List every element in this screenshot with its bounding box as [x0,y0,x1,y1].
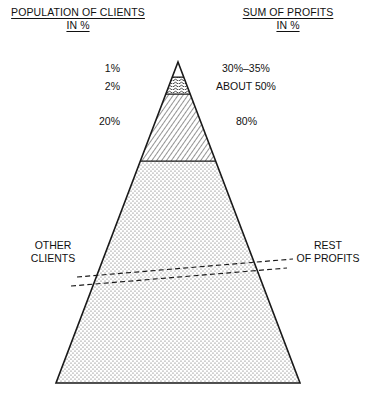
label-other-clients-line2: CLIENTS [20,252,86,265]
header-population-of-clients: POPULATION OF CLIENTS IN % [2,6,154,32]
label-other-clients-line1: OTHER [20,239,86,252]
label-rest-of-profits-line1: REST [292,239,364,252]
pyramid-diagram: POPULATION OF CLIENTS IN % SUM OF PROFIT… [0,0,365,398]
label-left-20-percent: 20% [66,115,120,128]
label-left-2-percent: 2% [75,80,120,93]
header-right-line2: IN % [218,19,358,32]
label-right-80-percent: 80% [236,115,326,128]
header-sum-of-profits: SUM OF PROFITS IN % [218,6,358,32]
pyramid-bands [40,55,325,391]
band-remainder-fill [40,161,325,391]
header-left-line1: POPULATION OF CLIENTS [2,6,154,19]
pyramid-svg [0,0,365,398]
label-right-about-50-percent: ABOUT 50% [216,80,336,93]
label-other-clients: OTHER CLIENTS [20,239,86,265]
label-rest-of-profits-line2: OF PROFITS [292,252,364,265]
header-right-line1: SUM OF PROFITS [218,6,358,19]
label-rest-of-profits: REST OF PROFITS [292,239,364,265]
header-left-line2: IN % [2,19,154,32]
label-right-30-35-percent: 30%–35% [222,62,332,75]
label-left-1-percent: 1% [75,62,120,75]
